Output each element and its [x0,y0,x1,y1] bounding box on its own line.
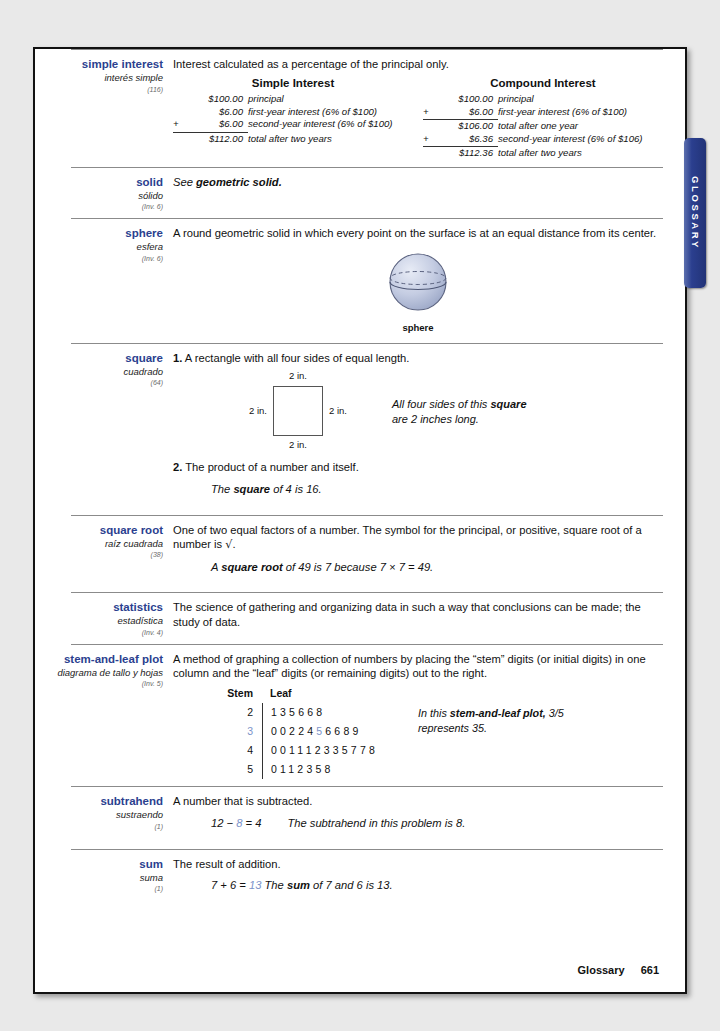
definition-sense-1: 1. A rectangle with all four sides of eq… [173,351,663,366]
glossary-side-tab[interactable]: GLOSSARY [684,138,706,288]
term-column: sphere esfera (Inv. 6) [55,226,173,336]
term-title: simple interest [55,58,163,71]
label: principal [248,93,413,106]
square-note: All four sides of this square are 2 inch… [392,397,527,427]
equation-part-b: = 4 [242,817,261,829]
leaf-digit: 7 [360,744,369,756]
term-reference: (Inv. 6) [55,254,163,263]
table-title: Compound Interest [423,76,663,91]
amount: $100.00 [435,93,498,106]
term-title: subtrahend [55,795,163,808]
leaf-digit: 1 [271,706,280,718]
glossary-entry-square-root: square root raíz cuadrada (38) One of tw… [35,516,685,593]
square-figure: 2 in. 2 in. 2 in. 2 in. All four sides o… [173,369,663,452]
footer-page-number: 661 [641,964,659,976]
definition-text: See geometric solid. [173,175,663,190]
leaf-values: 135668 [263,703,325,722]
term-spanish: estadística [55,615,163,627]
example-pre: The [211,483,233,495]
operator [173,106,185,119]
stem-value: 5 [211,760,263,779]
term-column: solid sólido (Inv. 6) [55,175,173,212]
definition-column: A method of graphing a collection of num… [173,652,663,780]
leaf-digit: 1 [297,744,305,756]
leaf-digit: 5 [316,725,325,737]
term-column: stem-and-leaf plot diagrama de tallo y h… [55,652,173,780]
leaf-digit: 0 [271,744,280,756]
amount: $112.00 [185,133,248,146]
bottom-label: 2 in. [218,438,378,453]
figure-caption: sphere [173,321,663,336]
term-title: solid [55,176,163,189]
stem-value: 3 [211,722,263,741]
stem-leaf-note: In this stem-and-leaf plot, 3/5 represen… [418,706,564,780]
definition-sense-2: 2. The product of a number and itself. [173,460,663,475]
example-pre: The [265,879,287,891]
glossary-entry-square: square cuadrado (64) 1. A rectangle with… [35,344,685,515]
glossary-entry-statistics: statistics estadística (Inv. 4) The scie… [35,593,685,644]
glossary-entry-sphere: sphere esfera (Inv. 6) A round geometric… [35,219,685,343]
subtrahend-example: 12 − 8 = 4The subtrahend in this problem… [211,816,663,831]
term-reference: (64) [55,378,163,387]
term-spanish: suma [55,872,163,884]
sense-number: 2. [173,461,182,473]
square-middle-row: 2 in. 2 in. [218,384,378,438]
leaf-digit: 0 [280,744,289,756]
table-row: $112.36 total after two years [423,147,663,160]
label: total after two years [248,133,413,146]
glossary-entry-sum: sum suma (1) The result of addition. 7 +… [35,850,685,911]
definition-column: See geometric solid. [173,175,663,212]
operator [423,93,435,106]
term-column: square cuadrado (64) [55,351,173,508]
see-prefix: See [173,176,196,188]
square-shape [273,386,323,436]
cross-reference[interactable]: geometric solid. [196,176,282,188]
stem-leaf-table: Stem Leaf 2 135668 3 0022456689 [211,686,378,780]
page-content: simple interest interés simple (116) Int… [35,49,685,992]
note-line-1-bold: square [490,398,526,410]
term-reference: (1) [55,884,163,893]
stem-leaf-plot: Stem Leaf 2 135668 3 0022456689 [173,686,663,780]
table-row: + $6.00 second-year interest (6% of $100… [173,118,413,133]
example-post: of 49 is 7 because 7 × 7 = 49. [283,561,434,573]
label: first-year interest (6% of $100) [248,106,413,119]
right-label: 2 in. [329,404,347,419]
leaf-digit: 6 [307,706,316,718]
stem-leaf-row: 2 135668 [211,703,378,722]
leaf-digit: 0 [271,763,280,775]
leaf-digit: 4 [307,725,316,737]
operator: + [423,133,435,148]
amount: $6.00 [435,106,498,121]
equation-part-a: 12 − [211,817,236,829]
operator [423,147,435,160]
leaf-digit: 8 [325,763,334,775]
label: total after two years [498,147,663,160]
sphere-icon [385,249,451,315]
table-row: $100.00 principal [173,93,413,106]
term-column: simple interest interés simple (116) [55,57,173,160]
definition-text: The science of gathering and organizing … [173,600,663,629]
example-bold: square root [221,561,283,573]
term-title: square root [55,524,163,537]
amount: $112.36 [435,147,498,160]
leaf-digit: 2 [315,744,324,756]
example-bold: square [233,483,270,495]
amount: $106.00 [435,120,498,133]
amount: $6.36 [435,133,498,148]
term-reference: (Inv. 5) [55,679,163,688]
term-reference: (Inv. 6) [55,202,163,211]
sum-example: 7 + 6 = 13 The sum of 7 and 6 is 13. [211,878,663,893]
term-reference: (1) [55,822,163,831]
stem-leaf-row: 3 0022456689 [211,722,378,741]
amount: $100.00 [185,93,248,106]
table-row: $6.00 first-year interest (6% of $100) [173,106,413,119]
definition-column: The science of gathering and organizing … [173,600,663,637]
example-pre: A [211,561,221,573]
footer-label: Glossary [578,964,625,976]
leaf-digit: 8 [369,744,378,756]
leaf-values: 0022456689 [263,722,361,741]
top-label: 2 in. [218,369,378,384]
definition-column: The result of addition. 7 + 6 = 13 The s… [173,857,663,904]
term-title: square [55,352,163,365]
stem-value: 2 [211,703,263,722]
